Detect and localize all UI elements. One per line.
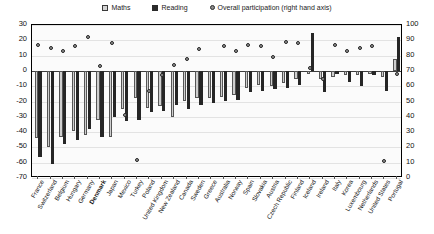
bar-group (44, 25, 56, 176)
overall-participation-point (296, 41, 300, 45)
x-axis-tick (50, 176, 51, 179)
bar-reading (187, 71, 190, 109)
overall-dot-icon (210, 5, 215, 10)
bar-group (255, 25, 267, 176)
bar-group (81, 25, 93, 176)
bar-group (366, 25, 378, 176)
legend-item-overall: Overall participation (right hand axis) (210, 4, 332, 11)
bar-maths (257, 71, 260, 85)
left-axis-tick-label: 30 (1, 20, 27, 28)
bar-maths (96, 71, 99, 120)
bar-group (106, 25, 118, 176)
right-axis-tick-label: 30 (406, 127, 432, 135)
bar-reading (397, 37, 400, 71)
bar-reading (286, 71, 289, 88)
right-axis-tick-label: 10 (406, 158, 432, 166)
overall-participation-point (395, 72, 399, 76)
overall-participation-point (246, 43, 250, 47)
bar-reading (100, 71, 103, 137)
bar-maths (282, 71, 285, 83)
bar-reading (88, 71, 91, 129)
overall-participation-point (197, 47, 201, 51)
bar-group (69, 25, 81, 176)
bar-reading (51, 71, 54, 164)
bar-group (341, 25, 353, 176)
overall-participation-point (382, 159, 386, 163)
left-axis-tick-label: 0 (1, 66, 27, 74)
bar-group (180, 25, 192, 176)
bar-maths (294, 71, 297, 79)
bar-group (119, 25, 131, 176)
bar-maths (368, 71, 371, 74)
bar-group (156, 25, 168, 176)
plot-area (31, 24, 402, 177)
reading-swatch-icon (152, 5, 158, 11)
x-axis-tick (322, 176, 323, 179)
bar-group (230, 25, 242, 176)
bar-reading (212, 71, 215, 103)
right-axis-tick-label: 80 (406, 51, 432, 59)
bar-group (143, 25, 155, 176)
bar-maths (121, 71, 124, 109)
left-axis-tick-label: -60 (1, 158, 27, 166)
bar-reading (360, 71, 363, 86)
bar-reading (113, 71, 116, 117)
right-axis-tick-label: 100 (406, 20, 432, 28)
maths-swatch-icon (102, 5, 108, 11)
overall-participation-point (345, 49, 349, 53)
bar-reading (298, 71, 301, 85)
overall-participation-point (61, 49, 65, 53)
overall-participation-point (370, 44, 374, 48)
bar-maths (270, 71, 273, 86)
bar-maths (171, 71, 174, 117)
right-axis-tick-label: 40 (406, 112, 432, 120)
bar-group (131, 25, 143, 176)
overall-participation-point (73, 44, 77, 48)
overall-participation-point (36, 43, 40, 47)
chart-container: Maths Reading Overall participation (rig… (0, 0, 434, 234)
bar-reading (249, 71, 252, 92)
bar-group (304, 25, 316, 176)
bar-reading (76, 71, 79, 140)
right-axis-tick-label: 0 (406, 173, 432, 181)
bar-reading (335, 71, 338, 74)
bar-maths (134, 71, 137, 99)
bar-reading (137, 71, 140, 120)
bar-reading (311, 33, 314, 71)
legend-item-maths: Maths (102, 4, 130, 11)
right-axis-tick-label: 60 (406, 81, 432, 89)
bar-maths (344, 71, 347, 76)
overall-participation-point (185, 57, 189, 61)
bar-maths (232, 71, 235, 95)
bar-maths (59, 71, 62, 137)
bar-reading (63, 71, 66, 144)
overall-participation-point (234, 49, 238, 53)
bar-reading (236, 71, 239, 100)
overall-participation-point (49, 46, 53, 50)
bar-group (218, 25, 230, 176)
bar-reading (199, 71, 202, 105)
bar-reading (224, 71, 227, 102)
x-axis-tick (223, 176, 224, 179)
bar-group (205, 25, 217, 176)
bar-group (279, 25, 291, 176)
overall-participation-point (259, 44, 263, 48)
left-axis-tick-label: -40 (1, 127, 27, 135)
right-axis-tick-label: 70 (406, 66, 432, 74)
bar-group (391, 25, 403, 176)
left-axis-tick-label: -50 (1, 142, 27, 150)
bar-reading (175, 71, 178, 105)
overall-participation-point (284, 40, 288, 44)
bar-group (329, 25, 341, 176)
bar-reading (273, 71, 276, 89)
left-axis-tick-label: -10 (1, 81, 27, 89)
overall-participation-point (135, 158, 139, 162)
bar-reading (372, 71, 375, 76)
x-axis-tick (285, 176, 286, 179)
bar-reading (261, 71, 264, 91)
left-axis-tick-label: 10 (1, 51, 27, 59)
bar-reading (348, 71, 351, 82)
right-axis-tick-label: 50 (406, 97, 432, 105)
bar-maths (356, 71, 359, 76)
bar-maths (381, 71, 384, 77)
